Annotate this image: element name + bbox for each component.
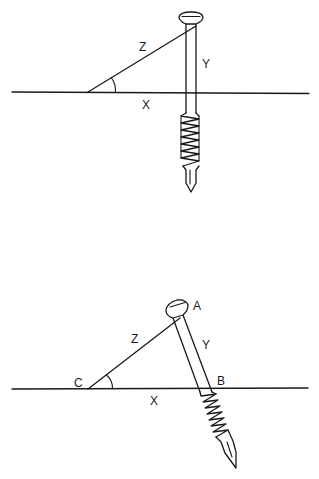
bottom-label-a: A xyxy=(193,299,201,313)
bottom-angle-arc xyxy=(107,375,113,389)
screw-angle-diagram: Z Y X A Y B C Z X xyxy=(0,0,319,479)
bottom-screw-icon xyxy=(166,300,236,468)
top-surface-line xyxy=(12,92,309,94)
top-label-x: X xyxy=(142,98,150,112)
bottom-panel: A Y B C Z X xyxy=(12,299,308,468)
bottom-label-x: X xyxy=(150,394,158,408)
top-label-y: Y xyxy=(202,57,210,71)
bottom-label-z: Z xyxy=(131,332,138,346)
top-screw-icon xyxy=(179,12,203,192)
bottom-label-c: C xyxy=(74,376,83,390)
top-label-z: Z xyxy=(139,40,146,54)
bottom-label-b: B xyxy=(217,374,225,388)
bottom-label-y: Y xyxy=(202,338,210,352)
bottom-z-line xyxy=(88,318,180,389)
top-angle-arc xyxy=(112,78,116,93)
diagram-canvas: Z Y X A Y B C Z X xyxy=(0,0,319,479)
top-panel: Z Y X xyxy=(12,12,309,192)
top-z-line xyxy=(88,26,196,92)
bottom-surface-line xyxy=(12,388,308,389)
